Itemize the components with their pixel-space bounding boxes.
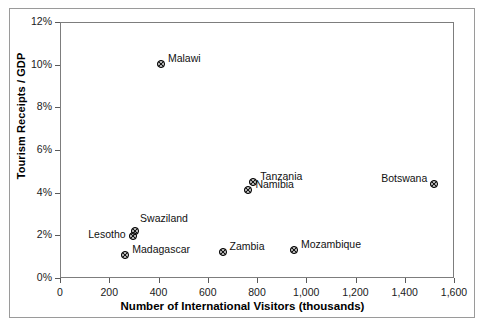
y-tick: 8% — [0, 107, 60, 108]
y-tick-label: 4% — [37, 186, 52, 198]
x-tick-mark — [257, 278, 258, 283]
x-tick-mark — [306, 278, 307, 283]
y-tick: 10% — [0, 65, 60, 66]
data-point-marker-icon — [244, 180, 252, 188]
y-tick-mark — [55, 65, 60, 66]
data-point-label: Mozambique — [301, 239, 361, 250]
y-tick-label: 6% — [37, 143, 52, 155]
y-tick-label: 2% — [37, 228, 52, 240]
y-axis-title: Tourism Receipts / GDP — [15, 0, 27, 241]
y-tick-mark — [55, 22, 60, 23]
x-tick-mark — [208, 278, 209, 283]
x-axis-title: Number of International Visitors (thousa… — [0, 300, 485, 312]
x-tick-mark — [159, 278, 160, 283]
y-tick: 6% — [0, 150, 60, 151]
y-tick-mark — [55, 150, 60, 151]
data-point-marker-icon — [157, 54, 165, 62]
x-tick-mark — [109, 278, 110, 283]
y-tick-mark — [55, 193, 60, 194]
x-tick-mark — [454, 278, 455, 283]
data-point-label: Malawi — [168, 53, 201, 64]
y-tick: 12% — [0, 22, 60, 23]
y-tick-label: 10% — [31, 58, 52, 70]
scatter-chart-figure: Tourism Receipts / GDP Number of Interna… — [0, 0, 485, 328]
y-tick-label: 0% — [37, 271, 52, 283]
x-tick-label: 1,600 — [424, 286, 484, 298]
x-tick-mark — [356, 278, 357, 283]
y-tick: 2% — [0, 235, 60, 236]
data-point-label: Botswana — [381, 173, 427, 184]
y-tick-label: 12% — [31, 15, 52, 27]
data-point-marker-icon — [121, 245, 129, 253]
data-point-label: Zambia — [230, 241, 265, 252]
data-point-label: Madagascar — [132, 244, 190, 255]
y-tick-label: 8% — [37, 100, 52, 112]
data-point-label: Swaziland — [140, 213, 188, 224]
data-point-label: Lesotho — [88, 229, 125, 240]
y-tick: 0% — [0, 278, 60, 279]
data-point-label: Namibia — [255, 179, 294, 190]
data-point-marker-icon — [430, 174, 438, 182]
y-tick-mark — [55, 235, 60, 236]
x-tick-mark — [405, 278, 406, 283]
x-tick-mark — [60, 278, 61, 283]
data-point-marker-icon — [290, 240, 298, 248]
y-tick: 4% — [0, 193, 60, 194]
y-tick-mark — [55, 107, 60, 108]
data-point-marker-icon — [129, 226, 137, 234]
data-point-marker-icon — [219, 242, 227, 250]
